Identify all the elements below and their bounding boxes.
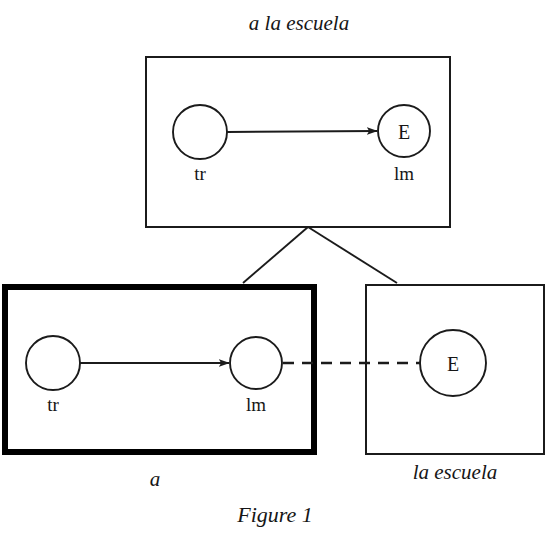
node-tr-top-label: tr	[194, 163, 206, 184]
node-lm-left[interactable]	[230, 337, 282, 389]
top-box-label: a la escuela	[249, 11, 349, 35]
figure-page: a la escuela tr E lm tr lm a E la e	[0, 0, 551, 539]
connector-apex-to-right-box	[308, 227, 397, 283]
node-e-right-inner: E	[447, 353, 459, 375]
node-lm-top-inner: E	[398, 121, 410, 143]
node-tr-left-label: tr	[47, 394, 59, 415]
connector-apex-to-left-box	[243, 227, 308, 283]
figure-caption: Figure 1	[236, 502, 313, 527]
node-lm-left-label: lm	[246, 394, 266, 415]
node-lm-top-label: lm	[394, 163, 414, 184]
left-box-label: a	[150, 467, 161, 491]
right-box-label: la escuela	[413, 460, 498, 484]
node-tr-top[interactable]	[173, 105, 227, 159]
edge-tr-to-lm-top	[227, 131, 377, 132]
node-tr-left[interactable]	[26, 336, 80, 390]
figure-canvas: a la escuela tr E lm tr lm a E la e	[0, 0, 551, 539]
